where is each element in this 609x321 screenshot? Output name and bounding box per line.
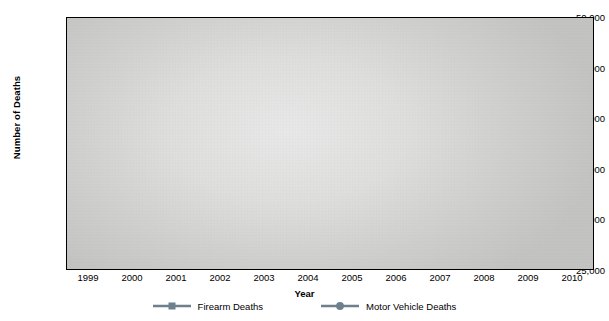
- legend-entry-firearm-deaths[interactable]: Firearm Deaths: [153, 300, 263, 312]
- chart-legend: Firearm DeathsMotor Vehicle Deaths: [0, 300, 609, 312]
- chart-figure: Number of Deaths 25,00030,00035,00040,00…: [0, 0, 609, 321]
- legend-circle-marker-icon: [321, 300, 359, 312]
- x-axis-tick-label: 2006: [374, 272, 418, 283]
- legend-label: Motor Vehicle Deaths: [366, 301, 456, 312]
- plot-area: [66, 17, 594, 270]
- x-axis-tick-label: 1999: [66, 272, 110, 283]
- x-axis-tick-label: 2002: [198, 272, 242, 283]
- x-axis-tick-label: 2008: [462, 272, 506, 283]
- x-axis-tick-label: 2003: [242, 272, 286, 283]
- y-axis-title: Number of Deaths: [11, 58, 22, 178]
- x-axis-tick-label: 2005: [330, 272, 374, 283]
- x-axis-tick-label: 2007: [418, 272, 462, 283]
- legend-label: Firearm Deaths: [198, 301, 263, 312]
- x-axis-tick-label: 2010: [550, 272, 594, 283]
- x-axis-tick-label: 2001: [154, 272, 198, 283]
- x-axis-tick-label: 2000: [110, 272, 154, 283]
- x-axis-title: Year: [0, 288, 609, 299]
- legend-square-marker-icon: [153, 300, 191, 312]
- x-axis-tick-label: 2004: [286, 272, 330, 283]
- x-axis-tick-label: 2009: [506, 272, 550, 283]
- plot-background: [67, 18, 593, 269]
- legend-entry-motor-vehicle-deaths[interactable]: Motor Vehicle Deaths: [321, 300, 456, 312]
